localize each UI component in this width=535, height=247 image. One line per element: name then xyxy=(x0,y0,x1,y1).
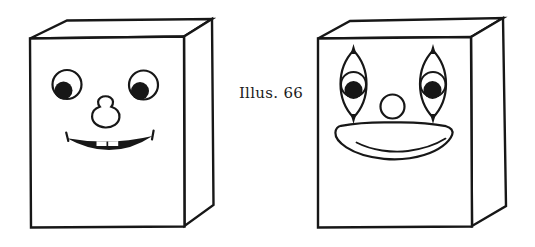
right-box-figure xyxy=(318,18,506,228)
figure-caption: Illus. 66 xyxy=(231,84,311,102)
right-box-side-face xyxy=(471,18,506,226)
left-figure-right-pupil-icon xyxy=(131,82,149,100)
left-box-figure xyxy=(30,19,214,228)
right-figure-right-pupil-icon xyxy=(424,81,442,99)
left-box-side-face xyxy=(184,19,214,226)
left-box-front-face xyxy=(30,37,185,228)
page-canvas: Illus. 66 xyxy=(0,0,535,247)
right-figure-nose xyxy=(381,95,405,119)
illustration xyxy=(0,0,535,247)
right-figure-left-pupil-icon xyxy=(345,81,363,99)
left-figure-left-pupil-icon xyxy=(55,82,73,100)
